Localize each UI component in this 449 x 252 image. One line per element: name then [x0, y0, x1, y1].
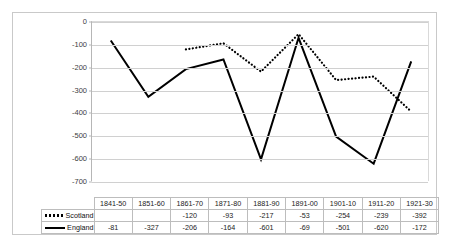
- table-cell-value: -81: [94, 222, 132, 234]
- chart-screenshot: 0-100-200-300-400-500-600-700 1841-50185…: [0, 0, 449, 252]
- y-axis-label: -200: [72, 64, 87, 72]
- column-header: 1871-80: [209, 198, 247, 210]
- y-axis-label: -400: [72, 110, 87, 118]
- table-cell-value: -239: [362, 210, 400, 222]
- y-axis-label: 0: [83, 18, 87, 26]
- table-cell-value: -601: [247, 222, 285, 234]
- table-cell-value: -501: [324, 222, 362, 234]
- y-axis-tick: [89, 182, 92, 183]
- y-axis-tick: [89, 22, 92, 23]
- y-axis-tick: [89, 113, 92, 114]
- table-cell-value: -392: [400, 210, 438, 222]
- table-cell-value: -93: [209, 210, 247, 222]
- table-cell-value: -217: [247, 210, 285, 222]
- y-axis-tick: [89, 90, 92, 91]
- y-axis-label: -600: [72, 155, 87, 163]
- table-cell-value: -254: [324, 210, 362, 222]
- table-row: Scotland-120-93-217-53-254-239-392: [42, 210, 439, 222]
- gridline: [92, 68, 428, 69]
- table-row: England-81-327-206-164-601-69-501-620-17…: [42, 222, 439, 234]
- series-lines: [92, 22, 430, 182]
- y-axis-tick: [89, 159, 92, 160]
- table-cell-value: [132, 210, 170, 222]
- table-cell-value: -206: [171, 222, 209, 234]
- column-header: 1881-90: [247, 198, 285, 210]
- y-axis-label: -500: [72, 133, 87, 141]
- column-header: 1891-00: [285, 198, 323, 210]
- legend-swatch-dotted-icon: [44, 214, 64, 217]
- y-axis-tick: [89, 67, 92, 68]
- y-axis-label: -100: [72, 41, 87, 49]
- column-header: 1851-60: [132, 198, 170, 210]
- y-axis-label: -300: [72, 87, 87, 95]
- plot-region: 0-100-200-300-400-500-600-700: [91, 21, 429, 193]
- legend-entry-scotland: Scotland: [42, 210, 95, 222]
- column-header: 1901-10: [324, 198, 362, 210]
- series-line-england: [111, 38, 411, 164]
- plot-area: 0-100-200-300-400-500-600-700: [91, 21, 429, 181]
- legend-label: Scotland: [66, 210, 94, 221]
- legend-header-cell: [42, 198, 95, 210]
- chart-data-table: 1841-501851-601861-701871-801881-901891-…: [41, 197, 439, 234]
- legend-swatch-solid-icon: [45, 227, 65, 229]
- gridline: [92, 182, 428, 183]
- y-axis-tick: [89, 44, 92, 45]
- gridline: [92, 22, 428, 23]
- gridline: [92, 45, 428, 46]
- y-axis-label: -700: [72, 178, 87, 186]
- table-cell-value: -120: [171, 210, 209, 222]
- table-cell-value: -164: [209, 222, 247, 234]
- column-header: 1861-70: [171, 198, 209, 210]
- table-cell-value: -172: [400, 222, 438, 234]
- chart-frame: 0-100-200-300-400-500-600-700 1841-50185…: [12, 12, 437, 235]
- column-header: 1841-50: [94, 198, 132, 210]
- gridline: [92, 136, 428, 137]
- table-cell-value: -327: [132, 222, 170, 234]
- column-header: 1911-20: [362, 198, 400, 210]
- legend-label: England: [67, 222, 93, 233]
- y-axis-tick: [89, 136, 92, 137]
- table-cell-value: -53: [285, 210, 323, 222]
- table-cell-value: -69: [285, 222, 323, 234]
- gridline: [92, 113, 428, 114]
- gridline: [92, 159, 428, 160]
- table-cell-value: -620: [362, 222, 400, 234]
- gridline: [92, 91, 428, 92]
- table-header-row: 1841-501851-601861-701871-801881-901891-…: [42, 198, 439, 210]
- column-header: 1921-30: [400, 198, 438, 210]
- legend-entry-england: England: [42, 222, 95, 234]
- table-cell-value: [94, 210, 132, 222]
